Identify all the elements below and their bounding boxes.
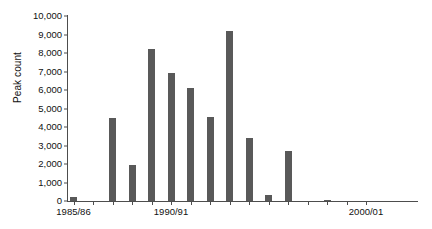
x-axis-tick-mark [93, 201, 94, 205]
y-axis-tick-mark [64, 145, 68, 146]
bar-chart: Peak count 01,0002,0003,0004,0005,0006,0… [0, 0, 432, 229]
y-axis-title: Peak count [12, 23, 23, 133]
y-axis-tick-mark [64, 182, 68, 183]
plot-area: 01,0002,0003,0004,0005,0006,0007,0008,00… [68, 16, 418, 201]
bar [148, 49, 155, 201]
y-axis-tick-mark [64, 127, 68, 128]
bar [109, 118, 116, 201]
x-axis-tick-mark [113, 201, 114, 205]
bar [246, 138, 253, 201]
x-axis-tick-mark [171, 201, 172, 205]
bar [129, 165, 136, 201]
x-axis-tick-label: 1985/86 [56, 207, 90, 217]
x-axis-tick-mark [366, 201, 367, 205]
y-axis-tick-mark [64, 71, 68, 72]
x-axis-tick-mark [191, 201, 192, 205]
bar [187, 88, 194, 201]
y-axis-tick-mark [64, 108, 68, 109]
x-axis-tick-mark [308, 201, 309, 205]
x-axis-tick-mark [132, 201, 133, 205]
x-axis-tick-mark [288, 201, 289, 205]
x-axis-tick-label: 1990/91 [154, 207, 188, 217]
y-axis-tick-label: 10,000 [33, 11, 68, 21]
x-axis-tick-label: 2000/01 [349, 207, 383, 217]
y-axis-tick-mark [64, 34, 68, 35]
x-axis-tick-mark [347, 201, 348, 205]
bar [226, 31, 233, 201]
y-axis-tick-mark [64, 53, 68, 54]
bar [207, 117, 214, 201]
y-axis-tick-mark [64, 201, 68, 202]
x-axis-tick-mark [210, 201, 211, 205]
x-axis-tick-mark [74, 201, 75, 205]
x-axis-tick-mark [269, 201, 270, 205]
x-axis-tick-mark [230, 201, 231, 205]
y-axis-tick-mark [64, 90, 68, 91]
bar [168, 73, 175, 201]
bar [285, 151, 292, 201]
y-axis-tick-mark [64, 16, 68, 17]
y-axis-tick-mark [64, 164, 68, 165]
x-axis-tick-mark [249, 201, 250, 205]
x-axis-tick-mark [327, 201, 328, 205]
x-axis-tick-mark [152, 201, 153, 205]
